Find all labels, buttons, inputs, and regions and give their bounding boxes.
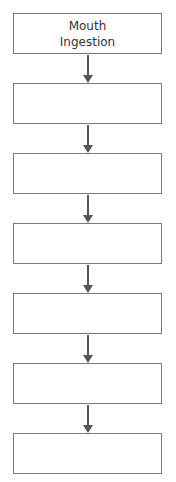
flow-box-2 xyxy=(13,83,162,124)
flow-box-1-line2: Ingestion xyxy=(60,34,115,50)
arrow-2 xyxy=(87,125,89,153)
flow-box-1: Mouth Ingestion xyxy=(13,13,162,54)
flow-box-1-line1: Mouth xyxy=(60,18,115,34)
arrow-6 xyxy=(87,405,89,433)
flow-box-1-text: Mouth Ingestion xyxy=(60,18,115,50)
flow-box-3 xyxy=(13,153,162,194)
arrow-4 xyxy=(87,265,89,293)
arrow-1 xyxy=(87,55,89,83)
arrow-5 xyxy=(87,335,89,363)
flow-box-6 xyxy=(13,363,162,404)
flow-box-5 xyxy=(13,293,162,334)
flow-box-4 xyxy=(13,223,162,264)
flow-box-7 xyxy=(13,433,162,474)
arrow-3 xyxy=(87,195,89,223)
